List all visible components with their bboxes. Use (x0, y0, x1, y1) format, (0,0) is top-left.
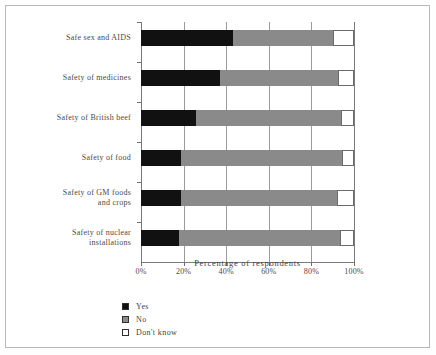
black-square-icon (122, 303, 129, 310)
white-square-icon (122, 329, 129, 336)
bar-segment-yes (141, 110, 196, 126)
bar-segment-dont-know (340, 230, 354, 246)
bar-segment-yes (141, 70, 220, 86)
x-axis-tick-label: 0% (135, 267, 146, 276)
gridline (269, 22, 270, 262)
category-label: Safety of nuclear installations (0, 228, 131, 247)
gridline (184, 22, 185, 262)
bar-segment-dont-know (333, 30, 354, 46)
bar-segment-yes (141, 30, 233, 46)
bar-segment-dont-know (337, 190, 354, 206)
bar-row (141, 110, 354, 126)
y-axis-line (141, 22, 142, 262)
chart-figure: Safe sex and AIDSSafety of medicinesSafe… (0, 0, 436, 355)
y-axis-tick (137, 182, 141, 183)
bar-segment-no (181, 150, 342, 166)
bar-segment-no (179, 230, 340, 246)
y-axis-tick (137, 22, 141, 23)
x-axis-tick-label: 20% (176, 267, 191, 276)
legend-label: No (136, 315, 147, 324)
legend-item: No (122, 313, 177, 325)
x-axis-tick-label: 100% (344, 267, 363, 276)
y-axis-tick (137, 62, 141, 63)
category-label: Safety of British beef (0, 113, 131, 123)
gray-square-icon (122, 316, 129, 323)
category-label: Safety of medicines (0, 73, 131, 83)
bar-row (141, 150, 354, 166)
x-axis-title: Percentage of respondents (141, 258, 354, 268)
bar-segment-no (196, 110, 341, 126)
bar-segment-yes (141, 230, 179, 246)
legend-item: Don't know (122, 326, 177, 338)
legend-label: Don't know (136, 328, 177, 337)
plot-right-border (354, 22, 355, 262)
bar-segment-yes (141, 190, 181, 206)
x-axis-tick-label: 40% (219, 267, 234, 276)
bar-row (141, 230, 354, 246)
y-axis-tick (137, 102, 141, 103)
bar-row (141, 190, 354, 206)
bar-segment-no (181, 190, 336, 206)
plot-area: 0%20%40%60%80%100% (141, 22, 354, 262)
category-label: Safety of food (0, 153, 131, 163)
bar-segment-dont-know (338, 70, 354, 86)
y-axis-tick (137, 142, 141, 143)
bar-segment-dont-know (342, 150, 354, 166)
bar-row (141, 70, 354, 86)
bar-segment-dont-know (341, 110, 354, 126)
chart-legend: YesNoDon't know (122, 300, 177, 339)
category-label: Safe sex and AIDS (0, 33, 131, 43)
y-axis-tick (137, 222, 141, 223)
bar-segment-no (233, 30, 333, 46)
x-axis-tick-label: 80% (304, 267, 319, 276)
bar-segment-yes (141, 150, 181, 166)
bar-segment-no (220, 70, 338, 86)
x-axis-tick-label: 60% (261, 267, 276, 276)
category-label: Safety of GM foods and crops (0, 188, 131, 207)
bar-row (141, 30, 354, 46)
gridline (311, 22, 312, 262)
x-axis-tick (354, 262, 355, 266)
legend-label: Yes (136, 302, 149, 311)
gridline (226, 22, 227, 262)
legend-item: Yes (122, 300, 177, 312)
